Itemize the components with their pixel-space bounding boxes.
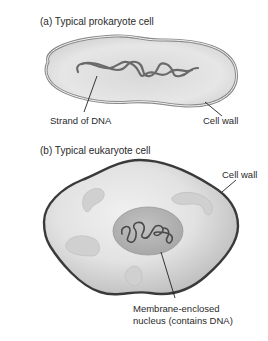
panel-a-title: (a) Typical prokaryote cell — [40, 16, 154, 27]
cell-comparison-diagram: (a) Typical prokaryote cell Strand of DN… — [0, 0, 268, 341]
eukaryote-cell — [44, 160, 238, 298]
label-cell-wall-b: Cell wall — [222, 169, 257, 180]
label-nucleus-line1: Membrane-enclosed — [133, 303, 220, 314]
label-cell-wall-a: Cell wall — [203, 115, 238, 126]
nucleus — [113, 207, 183, 255]
panel-b-title: (b) Typical eukaryote cell — [40, 145, 150, 156]
label-nucleus-line2: nucleus (contains DNA) — [133, 315, 233, 326]
cell-wall-leader-line-b — [222, 180, 236, 192]
label-strand-of-dna: Strand of DNA — [50, 115, 112, 126]
prokaryote-cell — [46, 36, 236, 116]
